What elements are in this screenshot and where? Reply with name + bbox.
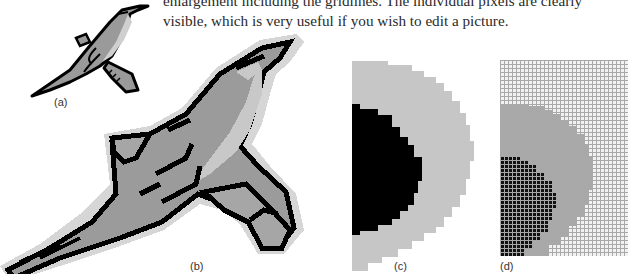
figure-c-label: (c): [394, 260, 407, 272]
figure-b-label: (b): [190, 260, 203, 272]
gridline-enlargement-image: [500, 60, 628, 256]
body-paragraph: enlargement including the gridlines. The…: [163, 0, 628, 31]
bird-pixelated-image: [0, 34, 330, 274]
figure-d-label: (d): [500, 260, 513, 272]
eye-enlargement-image: [352, 61, 484, 271]
text-line-1: enlargement including the gridlines. The…: [163, 0, 628, 11]
text-line-2: visible, which is very useful if you wis…: [163, 11, 628, 31]
